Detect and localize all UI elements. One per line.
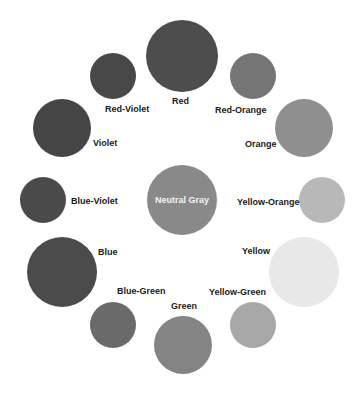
swatch-violet xyxy=(33,99,91,157)
label-orange: Orange xyxy=(245,139,277,149)
swatch-red-orange xyxy=(230,53,276,99)
label-blue-violet: Blue-Violet xyxy=(71,196,118,206)
label-yellow-green: Yellow-Green xyxy=(209,287,266,297)
label-blue: Blue xyxy=(98,247,118,257)
swatch-blue xyxy=(27,237,97,307)
swatch-yellow-green xyxy=(230,302,276,348)
label-red-orange: Red-Orange xyxy=(215,105,267,115)
swatch-yellow-orange xyxy=(299,177,345,223)
swatch-red xyxy=(146,20,218,92)
label-red-violet: Red-Violet xyxy=(105,104,149,114)
swatch-orange xyxy=(275,99,333,157)
swatch-green xyxy=(154,316,212,374)
label-blue-green: Blue-Green xyxy=(117,286,166,296)
label-yellow: Yellow xyxy=(242,246,270,256)
label-violet: Violet xyxy=(93,138,117,148)
center-label: Neutral Gray xyxy=(155,195,209,205)
swatch-blue-violet xyxy=(20,177,66,223)
label-red: Red xyxy=(172,96,189,106)
swatch-blue-green xyxy=(90,302,136,348)
swatch-red-violet xyxy=(90,53,136,99)
swatch-yellow xyxy=(269,237,339,307)
label-green: Green xyxy=(171,301,197,311)
label-yellow-orange: Yellow-Orange xyxy=(237,197,300,207)
